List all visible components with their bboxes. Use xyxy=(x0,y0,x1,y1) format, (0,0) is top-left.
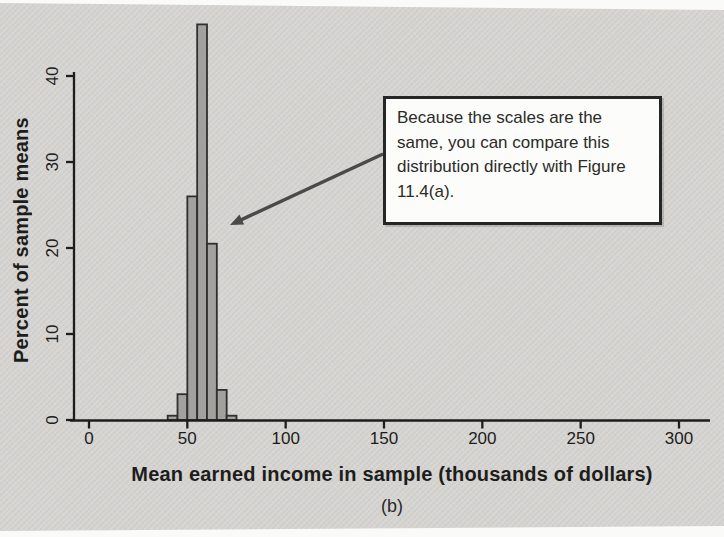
histogram-bar xyxy=(207,244,217,420)
scan-edge-bottom xyxy=(0,526,724,537)
x-tick-label: 300 xyxy=(665,429,693,448)
x-tick-label: 100 xyxy=(271,429,299,448)
scan-edge-top xyxy=(0,0,724,10)
y-tick-label: 0 xyxy=(43,415,62,424)
y-axis-title: Percent of sample means xyxy=(6,50,36,430)
y-tick-label: 10 xyxy=(43,325,62,344)
annotation-arrow-line xyxy=(240,154,383,220)
y-tick-label: 30 xyxy=(43,153,62,172)
histogram-bar xyxy=(217,390,227,420)
y-tick-label: 40 xyxy=(43,67,62,86)
x-tick-label: 150 xyxy=(370,429,398,448)
x-tick-label: 200 xyxy=(468,429,496,448)
annotation-text: Because the scales are the same, you can… xyxy=(397,108,626,201)
x-axis-title: Mean earned income in sample (thousands … xyxy=(60,463,724,486)
x-tick-label: 0 xyxy=(84,429,93,448)
histogram-bar xyxy=(197,24,207,420)
annotation-box: Because the scales are the same, you can… xyxy=(383,96,662,225)
x-tick-label: 250 xyxy=(566,429,594,448)
histogram-chart: 010203040050100150200250300 xyxy=(0,0,724,537)
x-tick-label: 50 xyxy=(178,429,197,448)
figure: 010203040050100150200250300 Percent of s… xyxy=(0,0,724,537)
y-tick-label: 20 xyxy=(43,239,62,258)
figure-caption: (b) xyxy=(60,496,724,517)
histogram-bar xyxy=(178,394,188,420)
histogram-bar xyxy=(187,196,197,420)
